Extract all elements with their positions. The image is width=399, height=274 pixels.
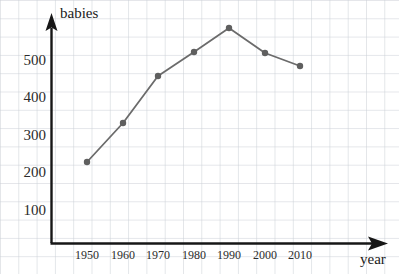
y-tick-label-400: 400 — [12, 90, 46, 105]
x-tick-label-1970: 1970 — [140, 249, 176, 261]
x-tick-label-1950: 1950 — [69, 249, 105, 261]
x-tick-label-1980: 1980 — [176, 249, 212, 261]
y-tick-label-300: 300 — [12, 128, 46, 143]
data-point — [297, 63, 303, 69]
x-tick-label-1960: 1960 — [105, 249, 141, 261]
chart-figure: babies year 500 400 300 200 100 1950 196… — [0, 0, 399, 274]
y-tick-label-500: 500 — [12, 53, 46, 68]
y-tick-label-200: 200 — [12, 165, 46, 180]
data-point — [226, 25, 232, 31]
data-point — [120, 120, 126, 126]
data-point — [84, 159, 90, 165]
data-point-markers — [84, 25, 303, 165]
x-axis-title: year — [360, 252, 386, 267]
y-tick-label-100: 100 — [12, 203, 46, 218]
data-point — [191, 49, 197, 55]
data-line — [87, 28, 300, 162]
data-point — [155, 73, 161, 79]
x-tick-label-1990: 1990 — [211, 249, 247, 261]
y-axis-title: babies — [60, 6, 98, 21]
x-tick-label-2010: 2010 — [282, 249, 318, 261]
chart-plot — [0, 0, 399, 274]
x-tick-label-2000: 2000 — [247, 249, 283, 261]
data-point — [262, 50, 268, 56]
